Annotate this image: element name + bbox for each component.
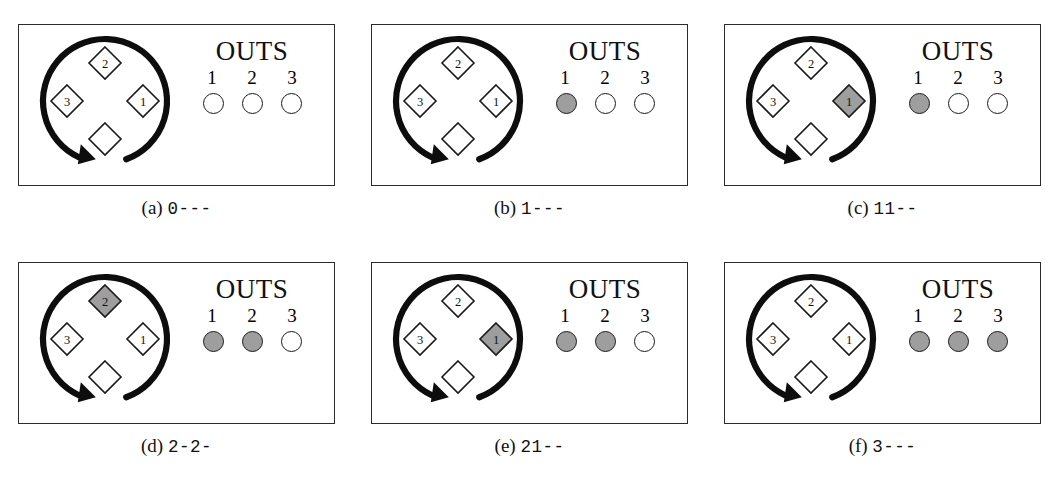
panel-caption-code: 2-2- <box>168 437 212 457</box>
base-label-second: 2 <box>455 295 461 309</box>
out-indicator-2 <box>595 93 616 114</box>
base-label-third: 3 <box>64 95 70 109</box>
panel-caption: (e) 21-- <box>495 435 565 457</box>
figure-cell-a: 2 1 3 OUTS 123 (a) 0--- <box>0 24 353 219</box>
out-number-1: 1 <box>201 305 223 327</box>
base-home <box>795 361 827 393</box>
out-indicator-1 <box>556 331 577 352</box>
direction-arrowhead <box>78 382 96 402</box>
base-label-second: 2 <box>808 295 814 309</box>
base-label-third: 3 <box>417 333 423 347</box>
diamond-area: 2 1 3 <box>384 29 539 184</box>
direction-arrowhead <box>431 382 449 402</box>
panel-row-bottom: 2 1 3 OUTS 123 (d) 2-2- <box>0 262 1058 457</box>
base-first: 1 <box>833 85 865 117</box>
diamond-diagram: 2 1 3 <box>31 267 186 422</box>
base-second: 2 <box>442 285 474 317</box>
out-indicator-2 <box>242 331 263 352</box>
outs-title: OUTS <box>894 275 1022 304</box>
panel-c: 2 1 3 OUTS 123 <box>724 24 1041 186</box>
panel-caption: (c) 11-- <box>848 197 918 219</box>
out-indicator-3 <box>634 93 655 114</box>
panel-caption: (d) 2-2- <box>141 435 212 457</box>
base-first: 1 <box>480 85 512 117</box>
panel-caption-code: 0--- <box>167 199 211 219</box>
base-label-second: 2 <box>455 57 461 71</box>
base-second: 2 <box>795 285 827 317</box>
out-indicator-3 <box>281 331 302 352</box>
out-number-3: 3 <box>281 67 303 89</box>
base-label-first: 1 <box>846 333 852 347</box>
outs-title: OUTS <box>188 37 316 66</box>
base-label-second: 2 <box>102 295 108 309</box>
outs-numbers: 123 <box>188 305 316 327</box>
base-label-second: 2 <box>808 57 814 71</box>
outs-numbers: 123 <box>541 305 669 327</box>
outs-indicators <box>541 93 669 114</box>
panel-caption-code: 21-- <box>520 437 564 457</box>
out-number-2: 2 <box>241 305 263 327</box>
panel-caption-code: 11-- <box>873 199 917 219</box>
outs-numbers: 123 <box>188 67 316 89</box>
outs-block: OUTS 123 <box>541 37 669 114</box>
panel-f: 2 1 3 OUTS 123 <box>724 262 1041 424</box>
outs-indicators <box>188 331 316 352</box>
outs-numbers: 123 <box>894 67 1022 89</box>
base-home <box>89 123 121 155</box>
base-third: 3 <box>757 323 789 355</box>
out-number-3: 3 <box>987 305 1009 327</box>
out-number-2: 2 <box>594 67 616 89</box>
base-second: 2 <box>89 285 121 317</box>
direction-arrowhead <box>784 382 802 402</box>
diamond-diagram: 2 1 3 <box>31 29 186 184</box>
base-label-first: 1 <box>846 95 852 109</box>
base-first: 1 <box>480 323 512 355</box>
out-number-1: 1 <box>201 67 223 89</box>
out-number-2: 2 <box>241 67 263 89</box>
base-second: 2 <box>89 47 121 79</box>
out-number-3: 3 <box>987 67 1009 89</box>
base-first: 1 <box>127 85 159 117</box>
out-indicator-2 <box>595 331 616 352</box>
base-home <box>442 123 474 155</box>
out-number-2: 2 <box>594 305 616 327</box>
out-indicator-1 <box>556 93 577 114</box>
panel-b: 2 1 3 OUTS 123 <box>371 24 688 186</box>
base-third: 3 <box>51 85 83 117</box>
out-indicator-1 <box>203 331 224 352</box>
panel-e: 2 1 3 OUTS 123 <box>371 262 688 424</box>
base-label-first: 1 <box>493 333 499 347</box>
out-number-1: 1 <box>907 67 929 89</box>
base-first: 1 <box>127 323 159 355</box>
out-number-2: 2 <box>947 305 969 327</box>
diamond-area: 2 1 3 <box>31 267 186 422</box>
diamond-diagram: 2 1 3 <box>737 267 892 422</box>
out-number-3: 3 <box>281 305 303 327</box>
outs-indicators <box>894 93 1022 114</box>
figure-cell-f: 2 1 3 OUTS 123 (f) 3--- <box>706 262 1058 457</box>
out-number-3: 3 <box>634 305 656 327</box>
out-indicator-1 <box>909 331 930 352</box>
figure-cell-c: 2 1 3 OUTS 123 (c) 11-- <box>706 24 1058 219</box>
panel-caption: (a) 0--- <box>142 197 212 219</box>
out-indicator-2 <box>948 331 969 352</box>
base-third: 3 <box>51 323 83 355</box>
base-label-first: 1 <box>140 95 146 109</box>
outs-indicators <box>188 93 316 114</box>
outs-title: OUTS <box>894 37 1022 66</box>
panel-caption: (b) 1--- <box>494 197 565 219</box>
base-label-first: 1 <box>140 333 146 347</box>
direction-arrowhead <box>431 144 449 164</box>
out-indicator-3 <box>987 331 1008 352</box>
out-number-1: 1 <box>554 67 576 89</box>
base-label-first: 1 <box>493 95 499 109</box>
panel-d: 2 1 3 OUTS 123 <box>18 262 335 424</box>
out-indicator-3 <box>281 93 302 114</box>
base-first: 1 <box>833 323 865 355</box>
diamond-area: 2 1 3 <box>384 267 539 422</box>
out-indicator-2 <box>242 93 263 114</box>
panel-caption-code: 1--- <box>521 199 565 219</box>
outs-numbers: 123 <box>894 305 1022 327</box>
out-number-1: 1 <box>907 305 929 327</box>
outs-numbers: 123 <box>541 67 669 89</box>
